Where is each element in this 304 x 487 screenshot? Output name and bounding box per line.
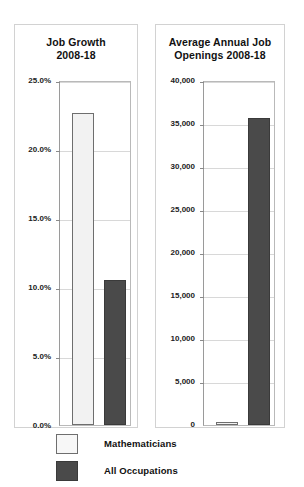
ytick-label-right-2: 30,000	[157, 163, 195, 171]
ytick-label-left-5: 0.0%	[17, 422, 51, 430]
ytick-label-left-2: 15.0%	[17, 215, 51, 223]
ytick-label-right-4: 20,000	[157, 249, 195, 257]
bar-job-openings-mathematicians	[216, 422, 238, 425]
chart-panel-job-openings: Average Annual Job Openings 2008-18 40,0…	[155, 24, 285, 428]
legend-label-mathematicians: Mathematicians	[104, 438, 177, 449]
gridline-left-15	[60, 220, 130, 221]
figure-root: Job Growth 2008-18 25.0% 20.0% 15.0% 10.…	[0, 0, 304, 487]
gridline-left-20	[60, 151, 130, 152]
ytick-label-left-1: 20.0%	[17, 146, 51, 154]
chart-title-job-openings: Average Annual Job Openings 2008-18	[156, 36, 284, 62]
chart-title-line-1: Job Growth	[15, 36, 137, 49]
legend-item-mathematicians: Mathematicians	[56, 432, 256, 459]
plot-area-job-openings	[203, 81, 275, 426]
ytick-label-left-3: 10.0%	[17, 284, 51, 292]
legend-item-all-occupations: All Occupations	[56, 459, 256, 486]
bar-job-growth-all-occupations	[104, 280, 126, 425]
legend-swatch-all-occupations	[56, 461, 78, 481]
ytick-label-right-0: 40,000	[157, 77, 195, 85]
bar-job-openings-all-occupations	[248, 118, 270, 425]
chart-title-line-2: Openings 2008-18	[156, 49, 284, 62]
ytick-label-right-7: 5,000	[157, 378, 195, 386]
chart-panel-job-growth: Job Growth 2008-18 25.0% 20.0% 15.0% 10.…	[14, 24, 138, 428]
plot-area-job-growth	[59, 81, 131, 426]
chart-title-line-1: Average Annual Job	[156, 36, 284, 49]
ytick-label-right-6: 10,000	[157, 335, 195, 343]
chart-title-job-growth: Job Growth 2008-18	[15, 36, 137, 62]
gridline-left-25	[60, 82, 130, 83]
ytick-label-right-5: 15,000	[157, 292, 195, 300]
ytick-label-left-4: 5.0%	[17, 353, 51, 361]
chart-legend: Mathematicians All Occupations	[56, 432, 256, 486]
ytick-label-left-0: 25.0%	[17, 77, 51, 85]
ytick-label-right-3: 25,000	[157, 206, 195, 214]
ytick-label-right-1: 35,000	[157, 120, 195, 128]
legend-label-all-occupations: All Occupations	[104, 465, 178, 476]
ytick-label-right-8: 0	[157, 421, 195, 429]
gridline-right-40000	[204, 82, 274, 83]
bar-job-growth-mathematicians	[72, 113, 94, 425]
legend-swatch-mathematicians	[56, 434, 78, 454]
chart-title-line-2: 2008-18	[15, 49, 137, 62]
